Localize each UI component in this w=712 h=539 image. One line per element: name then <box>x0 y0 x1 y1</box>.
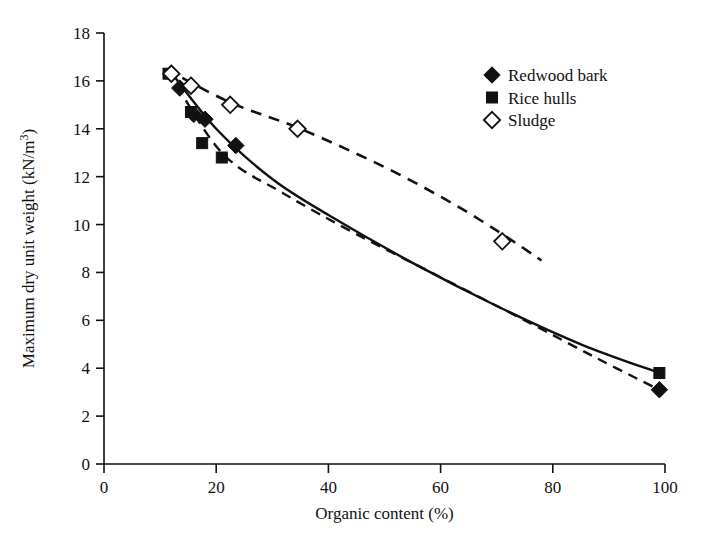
chart-figure: 024681012141618020406080100Organic conte… <box>0 0 712 539</box>
x-axis-tick-label: 100 <box>652 478 678 497</box>
y-axis-tick-label: 2 <box>82 407 91 426</box>
data-point-sludge <box>289 121 305 137</box>
x-axis-title: Organic content (%) <box>315 504 453 523</box>
x-axis-tick-label: 20 <box>208 478 225 497</box>
data-point-redwood-bark <box>651 382 667 398</box>
legend-marker-sludge <box>484 112 500 128</box>
data-point-rice-hulls <box>216 152 227 163</box>
x-axis-tick-label: 80 <box>544 478 561 497</box>
legend-marker-rice-hulls <box>487 92 498 103</box>
series-trend-line-sludge <box>166 69 542 261</box>
y-axis-tick-label: 12 <box>73 168 90 187</box>
y-axis-title: Maximum dry unit weight (kN/m3) <box>17 129 38 368</box>
x-axis-tick-label: 60 <box>432 478 449 497</box>
data-point-rice-hulls <box>185 107 196 118</box>
data-point-sludge <box>494 233 510 249</box>
legend-label-sludge: Sludge <box>508 111 555 130</box>
x-axis-tick-label: 40 <box>320 478 337 497</box>
data-point-redwood-bark <box>228 137 244 153</box>
series-trend-line-redwood-bark <box>169 69 660 373</box>
y-axis-tick-label: 10 <box>73 216 90 235</box>
y-axis-tick-label: 8 <box>82 263 91 282</box>
y-axis-tick-label: 16 <box>73 72 90 91</box>
chart-canvas: 024681012141618020406080100Organic conte… <box>0 0 712 539</box>
x-axis-tick-label: 0 <box>100 478 109 497</box>
y-axis-tick-label: 0 <box>82 455 91 474</box>
legend-marker-redwood-bark <box>484 67 500 83</box>
data-point-rice-hulls <box>654 368 665 379</box>
legend-label-redwood-bark: Redwood bark <box>508 66 608 85</box>
y-axis-tick-label: 18 <box>73 24 90 43</box>
y-axis-tick-label: 6 <box>82 311 91 330</box>
y-axis-tick-label: 4 <box>82 359 91 378</box>
series-trend-line-rice-hulls <box>169 71 660 389</box>
data-point-rice-hulls <box>197 138 208 149</box>
y-axis-tick-label: 14 <box>73 120 91 139</box>
legend-label-rice-hulls: Rice hulls <box>508 89 576 108</box>
